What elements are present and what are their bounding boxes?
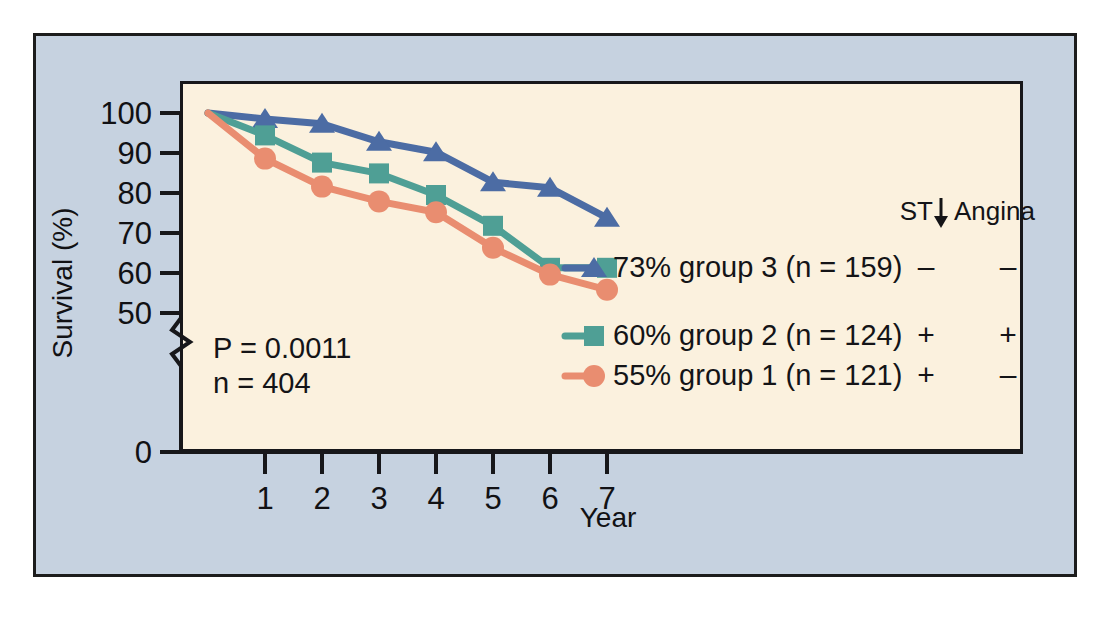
legend-label-group-3: 73% group 3 (n = 159) bbox=[613, 251, 902, 283]
y-tick-label-90: 90 bbox=[118, 136, 152, 171]
y-tick-label-80: 80 bbox=[118, 176, 152, 211]
x-axis-title: Year bbox=[580, 502, 637, 533]
legend-angina-group-1: – bbox=[1000, 358, 1017, 391]
x-tick-label-2: 2 bbox=[313, 481, 330, 516]
y-tick-label-100: 100 bbox=[100, 96, 152, 131]
legend-label-group-1: 55% group 1 (n = 121) bbox=[613, 359, 902, 391]
st-down-arrow-icon bbox=[934, 198, 948, 228]
data-point-group-2-year-5 bbox=[483, 216, 503, 236]
legend-angina-group-2: + bbox=[999, 318, 1017, 351]
x-tick-label-3: 3 bbox=[370, 481, 387, 516]
legend: ST Angina 73% group 3 (n = 159) – – 60% … bbox=[613, 196, 1035, 391]
data-point-group-1-year-6 bbox=[539, 264, 561, 286]
data-point-group-2-year-2 bbox=[312, 153, 332, 173]
x-axis: 1 2 3 4 5 6 7 Year bbox=[181, 452, 1023, 533]
x-tick-label-6: 6 bbox=[541, 481, 558, 516]
legend-st-group-1: + bbox=[917, 358, 935, 391]
x-tick-label-4: 4 bbox=[427, 481, 444, 516]
data-point-group-2-year-3 bbox=[369, 163, 389, 183]
survival-chart: 100 90 80 70 60 50 0 Survival (%) 1 2 3 … bbox=[0, 0, 1112, 617]
p-value-text: P = 0.0011 bbox=[213, 332, 351, 364]
y-axis-title: Survival (%) bbox=[47, 208, 78, 359]
data-point-group-1-year-5 bbox=[482, 237, 504, 259]
figure-root: 100 90 80 70 60 50 0 Survival (%) 1 2 3 … bbox=[0, 0, 1112, 617]
sample-size-text: n = 404 bbox=[213, 367, 311, 399]
y-tick-label-0: 0 bbox=[135, 435, 152, 470]
data-point-group-2-year-1 bbox=[255, 125, 275, 145]
legend-st-group-3: – bbox=[918, 250, 935, 283]
legend-symbol-group-2 bbox=[584, 326, 604, 346]
legend-header-st-label: ST bbox=[900, 196, 933, 226]
legend-marker-group-2 bbox=[565, 326, 604, 346]
legend-st-group-2: + bbox=[917, 318, 935, 351]
x-tick-label-1: 1 bbox=[256, 481, 273, 516]
y-tick-label-50: 50 bbox=[118, 296, 152, 331]
legend-header-angina-label: Angina bbox=[954, 196, 1035, 226]
data-point-group-1-year-3 bbox=[368, 190, 390, 212]
data-point-group-1-year-4 bbox=[425, 201, 447, 223]
legend-angina-group-3: – bbox=[1000, 250, 1017, 283]
y-axis: 100 90 80 70 60 50 0 Survival (%) bbox=[47, 96, 190, 470]
y-axis-break-zigzag bbox=[172, 318, 190, 452]
legend-symbol-group-1 bbox=[583, 365, 605, 387]
data-point-group-1-year-1 bbox=[254, 148, 276, 170]
y-tick-label-60: 60 bbox=[118, 256, 152, 291]
legend-marker-group-1 bbox=[565, 365, 605, 387]
legend-label-group-2: 60% group 2 (n = 124) bbox=[613, 319, 902, 351]
data-point-group-1-year-2 bbox=[311, 176, 333, 198]
x-tick-label-5: 5 bbox=[484, 481, 501, 516]
y-tick-label-70: 70 bbox=[118, 216, 152, 251]
statistics-annotation: P = 0.0011 n = 404 bbox=[213, 332, 351, 399]
